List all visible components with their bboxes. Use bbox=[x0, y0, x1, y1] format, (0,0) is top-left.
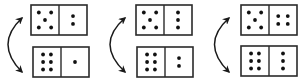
pip bbox=[281, 59, 285, 63]
pip bbox=[176, 26, 180, 30]
pip bbox=[145, 68, 149, 72]
pip bbox=[257, 52, 261, 56]
pip bbox=[281, 52, 285, 56]
pip bbox=[49, 60, 53, 64]
pip bbox=[247, 26, 251, 30]
domino-top bbox=[241, 5, 297, 35]
pip bbox=[148, 18, 152, 22]
pip bbox=[176, 18, 180, 22]
pip bbox=[176, 11, 180, 15]
domino-top bbox=[31, 5, 87, 35]
domino-pair-3 bbox=[215, 5, 298, 76]
pip bbox=[249, 52, 253, 56]
domino-half-right bbox=[73, 60, 77, 64]
domino-diagram bbox=[0, 0, 298, 81]
pip bbox=[276, 14, 280, 18]
pip bbox=[145, 53, 149, 57]
pip bbox=[145, 60, 149, 64]
double-headed-curved-arrow-icon bbox=[215, 18, 230, 72]
pip bbox=[257, 59, 261, 63]
pip bbox=[71, 22, 75, 26]
pip bbox=[49, 68, 53, 72]
pip bbox=[71, 14, 75, 18]
pip bbox=[286, 22, 290, 26]
double-headed-curved-arrow-icon bbox=[8, 18, 22, 72]
pip bbox=[49, 26, 53, 30]
pip bbox=[177, 64, 181, 68]
pip bbox=[154, 26, 158, 30]
pip bbox=[43, 18, 47, 22]
pip bbox=[41, 68, 45, 72]
domino-top bbox=[136, 5, 192, 35]
pip bbox=[177, 56, 181, 60]
pip bbox=[281, 67, 285, 71]
domino-bottom bbox=[33, 47, 89, 77]
domino-half-right bbox=[281, 52, 285, 71]
pip bbox=[142, 26, 146, 30]
pip bbox=[247, 11, 251, 15]
domino-bottom bbox=[241, 46, 297, 76]
pip bbox=[37, 11, 41, 15]
pip bbox=[49, 53, 53, 57]
pip bbox=[153, 60, 157, 64]
double-headed-curved-arrow-icon bbox=[110, 18, 125, 72]
pip bbox=[153, 68, 157, 72]
pip bbox=[276, 22, 280, 26]
pip bbox=[142, 11, 146, 15]
pip bbox=[49, 11, 53, 15]
pip bbox=[286, 14, 290, 18]
domino-bottom bbox=[137, 47, 193, 77]
pip bbox=[41, 60, 45, 64]
pip bbox=[259, 11, 263, 15]
pip bbox=[153, 53, 157, 57]
pip bbox=[259, 26, 263, 30]
pip bbox=[253, 18, 257, 22]
domino-pair-2 bbox=[110, 5, 193, 77]
pip bbox=[154, 11, 158, 15]
pip bbox=[41, 53, 45, 57]
pip bbox=[257, 67, 261, 71]
domino-half-right bbox=[176, 11, 180, 30]
pip bbox=[73, 60, 77, 64]
pip bbox=[37, 26, 41, 30]
domino-pair-1 bbox=[8, 5, 89, 77]
pip bbox=[249, 67, 253, 71]
pip bbox=[249, 59, 253, 63]
